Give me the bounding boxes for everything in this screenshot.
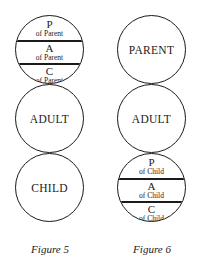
band-letter: P xyxy=(16,19,83,29)
band-sublabel: of Child xyxy=(118,191,185,200)
band-sublabel: of Parent xyxy=(16,76,83,84)
band-child-of-child: C of Child xyxy=(118,204,185,222)
band-sublabel: of Parent xyxy=(16,53,83,62)
band-letter: A xyxy=(16,43,83,53)
circle-label: ADULT xyxy=(16,113,83,125)
band-parent-of-parent: P of Parent xyxy=(16,19,83,38)
child-ego-state-circle: CHILD xyxy=(15,153,84,222)
band-letter: C xyxy=(16,66,83,76)
figure-caption: Figure 6 xyxy=(112,243,192,255)
band-child-of-parent: C of Parent xyxy=(16,66,83,84)
child-ego-state-circle-divided: P of Child A of Child C of Child xyxy=(117,153,186,222)
adult-ego-state-circle: ADULT xyxy=(15,84,84,153)
band-sublabel: of Parent xyxy=(16,29,83,38)
band-adult-of-child: A of Child xyxy=(118,181,185,200)
band-letter: A xyxy=(118,181,185,191)
parent-ego-state-circle-divided: P of Parent A of Parent C of Parent xyxy=(15,15,84,84)
circle-label: CHILD xyxy=(16,182,83,194)
adult-ego-state-circle: ADULT xyxy=(117,84,186,153)
circle-label: PARENT xyxy=(118,44,185,56)
band-letter: P xyxy=(118,157,185,167)
figure-caption: Figure 5 xyxy=(10,243,90,255)
band-sublabel: of Child xyxy=(118,214,185,222)
circle-label: ADULT xyxy=(118,113,185,125)
band-adult-of-parent: A of Parent xyxy=(16,43,83,62)
band-sublabel: of Child xyxy=(118,167,185,176)
parent-ego-state-circle: PARENT xyxy=(117,15,186,84)
band-letter: C xyxy=(118,204,185,214)
band-parent-of-child: P of Child xyxy=(118,157,185,176)
